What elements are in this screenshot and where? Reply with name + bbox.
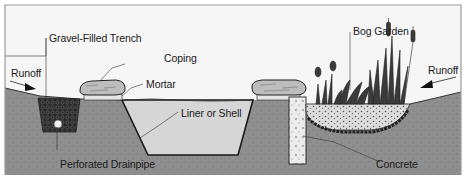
- perforated-drainpipe: [54, 120, 62, 128]
- coping-stone-left: [80, 80, 125, 95]
- label-mortar: Mortar: [146, 78, 176, 90]
- concrete-footing: [289, 97, 306, 164]
- coping-stone-right: [252, 80, 306, 95]
- label-runoff-left: Runoff: [11, 67, 41, 79]
- label-concrete: Concrete: [376, 158, 418, 170]
- label-bog-garden: Bog Garden: [353, 25, 409, 37]
- label-runoff-right: Runoff: [428, 64, 458, 76]
- label-coping: Coping: [164, 52, 197, 64]
- label-perforated-drainpipe: Perforated Drainpipe: [60, 158, 155, 170]
- label-gravel-filled-trench: Gravel-Filled Trench: [49, 32, 142, 44]
- label-liner-or-shell: Liner or Shell: [181, 107, 241, 119]
